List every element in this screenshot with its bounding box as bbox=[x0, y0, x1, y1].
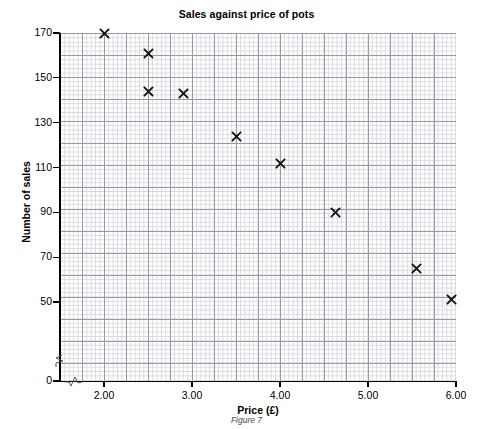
x-axis-line bbox=[59, 381, 456, 382]
y-tick-label: 50 bbox=[8, 295, 52, 307]
x-tick-label: 4.00 bbox=[255, 389, 305, 401]
x-tick-label: 6.00 bbox=[431, 389, 481, 401]
plot-area bbox=[60, 33, 456, 381]
x-tick-mark bbox=[279, 381, 280, 387]
y-tick-mark bbox=[53, 32, 60, 33]
data-point bbox=[275, 158, 286, 169]
x-tick-label: 3.00 bbox=[167, 389, 217, 401]
data-point bbox=[99, 28, 110, 39]
grid-major bbox=[60, 33, 456, 381]
x-tick-mark bbox=[103, 381, 104, 387]
y-tick-mark bbox=[53, 122, 60, 123]
data-point bbox=[178, 88, 189, 99]
x-tick-mark bbox=[191, 381, 192, 387]
x-tick-mark bbox=[455, 381, 456, 387]
scatter-plot-figure: Sales against price of pots 050709011013… bbox=[0, 0, 493, 429]
y-tick-label: 150 bbox=[8, 71, 52, 83]
y-tick-mark bbox=[53, 380, 60, 381]
chart-title: Sales against price of pots bbox=[0, 8, 493, 20]
y-tick-label: 0 bbox=[8, 374, 52, 386]
y-axis-break-icon bbox=[53, 352, 67, 368]
data-point bbox=[330, 207, 341, 218]
x-tick-label: 5.00 bbox=[343, 389, 393, 401]
y-axis-title: Number of sales bbox=[20, 112, 32, 292]
x-axis-break-icon bbox=[64, 374, 84, 388]
y-tick-mark bbox=[53, 257, 60, 258]
data-point bbox=[446, 294, 457, 305]
figure-caption: Figure 7 bbox=[0, 415, 493, 425]
y-axis-line bbox=[59, 33, 60, 381]
x-tick-label: 2.00 bbox=[79, 389, 129, 401]
y-tick-mark bbox=[53, 167, 60, 168]
data-point bbox=[231, 131, 242, 142]
y-tick-mark bbox=[53, 77, 60, 78]
y-tick-mark bbox=[53, 301, 60, 302]
x-tick-mark bbox=[367, 381, 368, 387]
data-point bbox=[143, 48, 154, 59]
data-point bbox=[143, 86, 154, 97]
data-point bbox=[411, 263, 422, 274]
y-tick-label: 170 bbox=[8, 26, 52, 38]
y-tick-mark bbox=[53, 212, 60, 213]
